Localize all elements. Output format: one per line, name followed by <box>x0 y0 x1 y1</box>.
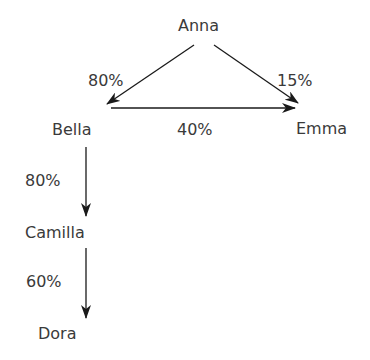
edge-label-bella-camilla: 80% <box>25 172 61 190</box>
edge-label-anna-bella: 80% <box>88 72 124 90</box>
node-dora: Dora <box>38 325 77 343</box>
node-emma: Emma <box>296 120 347 138</box>
node-bella: Bella <box>52 121 92 139</box>
edge-label-bella-emma: 40% <box>177 121 213 139</box>
node-camilla: Camilla <box>25 224 85 242</box>
edge-label-anna-emma: 15% <box>277 72 313 90</box>
ownership-diagram: Anna 80% 15% Bella 40% Emma 80% Camilla … <box>0 0 370 360</box>
edge-label-camilla-dora: 60% <box>26 273 62 291</box>
node-anna: Anna <box>178 17 219 35</box>
